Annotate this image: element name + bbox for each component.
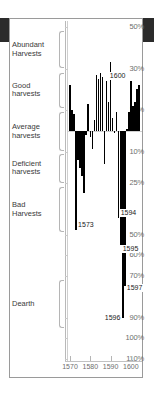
bar-1592 [114, 131, 116, 133]
y-tick-mark [65, 183, 68, 184]
page-root: 50% 30% 10% 10% 25% 50% 60% 70% 90% 100%… [0, 0, 161, 400]
bar-1578 [85, 131, 87, 135]
x-tick-1600 [131, 356, 132, 361]
band-line-2: harvests [12, 89, 40, 98]
x-label-1600: 1600 [120, 363, 142, 370]
band-line-2: Harvests [12, 209, 42, 218]
bar-1581 [92, 131, 94, 150]
y-tick-100-neg: 100% [96, 333, 144, 342]
brace-good [59, 73, 64, 108]
y-tick-110-neg: 110% [96, 354, 144, 363]
x-tick-1590 [111, 356, 112, 361]
x-label-1590: 1590 [100, 363, 122, 370]
band-line-2: harvests [12, 131, 40, 140]
y-tick-mark [65, 235, 68, 236]
band-line-2: Harvests [12, 49, 42, 58]
annotation-1600: 1600 [109, 72, 127, 80]
y-tick-mark [65, 338, 68, 339]
y-tick-70-neg: 70% [96, 271, 144, 280]
y-axis-line-inner [67, 21, 68, 361]
harvest-chart-plot: 50% 30% 10% 10% 25% 50% 60% 70% 90% 100%… [10, 19, 144, 379]
y-tick-mark [65, 318, 68, 319]
bar-1577 [83, 131, 85, 193]
brace-deficient [59, 154, 64, 183]
annotation-1594: 1594 [120, 209, 138, 217]
y-tick-mark [65, 255, 68, 256]
binding-tab-right [143, 18, 154, 42]
bar-1591 [112, 118, 114, 130]
y-tick-mark [65, 359, 68, 360]
y-tick-mark [65, 110, 68, 111]
bar-1579 [87, 104, 89, 131]
band-line-2: harvests [12, 167, 40, 176]
x-label-1580: 1580 [79, 363, 101, 370]
annotation-1573: 1573 [77, 221, 95, 229]
band-label-abundant-harvests: Abundant Harvests [12, 41, 58, 58]
bar-1604 [138, 85, 140, 131]
band-line-1: Dearth [12, 299, 35, 308]
brace-dearth [59, 280, 64, 328]
x-label-1570: 1570 [59, 363, 81, 370]
bar-1586 [102, 77, 104, 131]
y-tick-mark [65, 27, 68, 28]
bar-1587 [104, 131, 106, 164]
chart-card: 50% 30% 10% 10% 25% 50% 60% 70% 90% 100%… [9, 18, 143, 378]
band-label-dearth: Dearth [12, 300, 58, 309]
annotation-1596: 1596 [104, 314, 122, 322]
y-axis-line [65, 21, 66, 361]
x-tick-1570 [70, 356, 71, 361]
band-label-average-harvests: Average harvests [12, 123, 58, 140]
annotation-1597: 1597 [126, 284, 144, 292]
annotation-1595: 1595 [122, 245, 140, 253]
y-tick-50-top: 50% [96, 22, 144, 31]
band-label-good-harvests: Good harvests [12, 82, 58, 99]
x-tick-1580 [90, 356, 91, 361]
band-label-bad-harvests: Bad Harvests [12, 201, 58, 218]
y-tick-mark [65, 152, 68, 153]
y-tick-mark [65, 276, 68, 277]
band-label-deficient-harvests: Deficient harvests [12, 160, 58, 177]
bar-1572 [73, 114, 75, 131]
brace-average [59, 112, 64, 151]
brace-bad [59, 187, 64, 233]
bar-1593 [116, 112, 118, 131]
y-tick-mark [65, 69, 68, 70]
brace-abundant [59, 31, 64, 68]
